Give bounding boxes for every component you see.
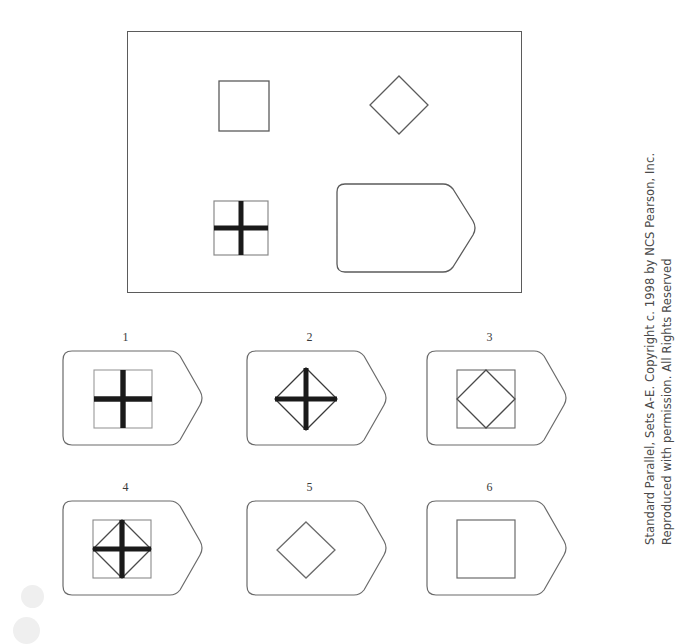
option-4[interactable]: 4 (48, 480, 233, 625)
option-6-number: 6 (412, 480, 567, 494)
option-2-number: 2 (232, 330, 387, 344)
option-6-figure (422, 496, 590, 604)
option-1-number: 1 (48, 330, 203, 344)
stimulus-box (127, 31, 522, 293)
option-5-number: 5 (232, 480, 387, 494)
inner-square-with-diamond (457, 370, 515, 428)
option-4-number: 4 (48, 480, 203, 494)
option-3-figure (422, 346, 590, 454)
inner-square-cross (94, 370, 152, 428)
stimulus-shape-square-with-cross (213, 200, 269, 256)
watermark-dot (21, 585, 44, 608)
option-3[interactable]: 3 (412, 330, 597, 475)
watermark-dot (13, 617, 40, 644)
option-5[interactable]: 5 (232, 480, 417, 625)
option-2-figure (242, 346, 410, 454)
copyright-credit: Standard Parallel, Sets A-E. Copyright c… (602, 0, 648, 629)
option-2[interactable]: 2 (232, 330, 417, 475)
stimulus-shape-plain-pentagon (333, 180, 481, 276)
inner-square-diamond-cross (93, 520, 151, 578)
option-1-figure (58, 346, 226, 454)
options-grid: 1 2 (0, 330, 600, 620)
copyright-line-1: Standard Parallel, Sets A-E. Copyright c… (642, 153, 659, 545)
option-4-figure (58, 496, 226, 604)
option-6[interactable]: 6 (412, 480, 597, 625)
stimulus-shape-plain-diamond (368, 74, 430, 136)
option-5-figure (242, 496, 410, 604)
inner-plain-square (457, 520, 515, 578)
copyright-line-2: Reproduced with permission. All Rights R… (659, 153, 676, 545)
option-3-number: 3 (412, 330, 567, 344)
stimulus-shape-plain-square (218, 80, 270, 132)
option-1[interactable]: 1 (48, 330, 233, 475)
